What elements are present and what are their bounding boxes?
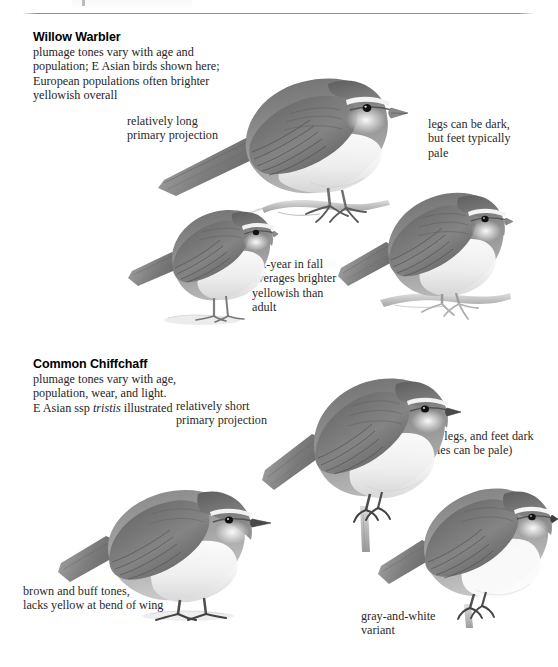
bill bbox=[446, 408, 462, 416]
chiffchaff-subspecies-name: tristis bbox=[93, 401, 121, 415]
eye bbox=[481, 216, 488, 223]
eye bbox=[225, 516, 233, 523]
figure-chiffchaff-brown-buff bbox=[58, 480, 273, 625]
callout-willow-legs-feet: legs can be dark, but feet typically pal… bbox=[428, 117, 548, 160]
chiffchaff-desc-post: illustrated bbox=[121, 401, 173, 415]
bill bbox=[551, 515, 558, 523]
page-header-rule bbox=[22, 13, 534, 14]
bill bbox=[273, 231, 279, 237]
figure-willow-warbler-first-year bbox=[128, 196, 278, 336]
eye bbox=[253, 230, 259, 236]
eye bbox=[528, 514, 535, 521]
bill bbox=[505, 218, 514, 225]
cheek-highlight bbox=[215, 520, 249, 544]
cheek-highlight bbox=[518, 517, 548, 539]
species-heading-common-chiffchaff: Common Chiffchaff bbox=[33, 357, 147, 371]
figure-chiffchaff-gray-white bbox=[378, 478, 558, 630]
figure-willow-warbler-adult-right bbox=[338, 176, 513, 331]
eye bbox=[421, 405, 429, 412]
page-top-crop-artifact bbox=[72, 0, 192, 9]
cheek-highlight bbox=[243, 233, 269, 251]
bill bbox=[251, 519, 272, 527]
eye bbox=[363, 104, 372, 112]
cheek-highlight bbox=[471, 220, 501, 242]
cheek-highlight bbox=[411, 409, 445, 433]
species-heading-willow-warbler: Willow Warbler bbox=[33, 30, 121, 44]
field-guide-page: Willow Warbler plumage tones vary with a… bbox=[0, 0, 558, 667]
